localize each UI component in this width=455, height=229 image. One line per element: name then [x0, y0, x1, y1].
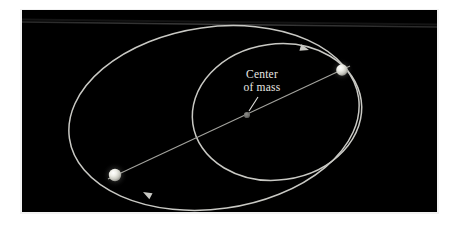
center-of-mass-dot	[244, 112, 250, 118]
right-star	[330, 58, 354, 82]
left-star	[102, 162, 128, 188]
left-star-body	[109, 169, 121, 181]
center-of-mass-label-line1: Center	[246, 68, 278, 80]
center-of-mass-label-line2: of mass	[244, 81, 281, 93]
image-panel	[22, 10, 437, 212]
binary-star-diagram: Center of mass	[0, 0, 455, 229]
figure-root: Center of mass	[0, 0, 455, 229]
right-star-body	[336, 64, 348, 76]
